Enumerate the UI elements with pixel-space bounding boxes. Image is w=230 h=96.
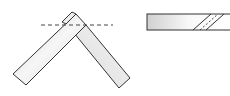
left-bar [13,12,86,85]
straight-bar [147,14,230,30]
diagram-svg [0,0,230,96]
right-bar [74,25,130,88]
miter-joint-diagram [0,0,230,96]
